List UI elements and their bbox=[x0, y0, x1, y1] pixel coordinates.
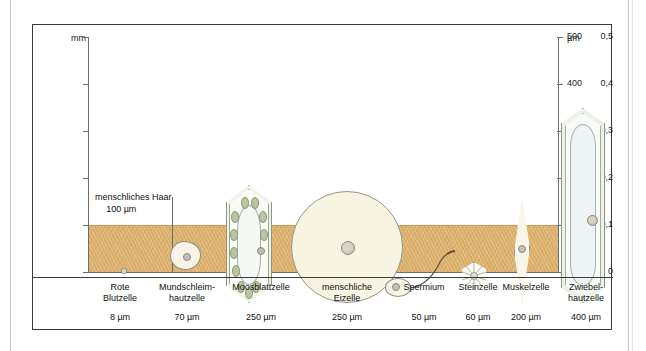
human-hair-annotation: menschliches Haar 100 µm bbox=[95, 191, 172, 215]
cell-nucleus bbox=[341, 241, 355, 255]
scan-page-edge-right-secondary bbox=[632, 0, 633, 351]
cell-vacuole bbox=[570, 124, 596, 286]
chloroplast bbox=[259, 211, 267, 223]
caption-name-red-blood-cell: Rote Blutzelle bbox=[89, 282, 151, 304]
caption-row: Rote Blutzelle 8 µm Mundschleim- hautzel… bbox=[33, 277, 613, 332]
caption-size-onion-skin-cell: 400 µm bbox=[555, 312, 617, 323]
cell-nucleus bbox=[587, 215, 598, 226]
caption-name-human-egg-cell: menschliche Eizelle bbox=[301, 282, 393, 304]
chloroplast bbox=[230, 247, 238, 259]
left-axis-tick-0.5 bbox=[83, 37, 89, 38]
caption-size-muscle-cell: 200 µm bbox=[489, 312, 563, 323]
left-axis-tick-0.1 bbox=[83, 225, 89, 226]
chloroplast bbox=[260, 229, 268, 241]
figure-frame: mm µm 0,5 0,4 0,3 0,2 0,1 0 500 400 300 … bbox=[32, 24, 612, 330]
right-axis-label-400: 400 bbox=[567, 79, 582, 88]
chloroplast bbox=[231, 211, 239, 223]
mouth-mucosa-cell-icon bbox=[170, 241, 201, 270]
onion-skin-cell-icon bbox=[561, 108, 605, 303]
human-hair-leader-line bbox=[172, 197, 173, 226]
chloroplast bbox=[232, 265, 240, 277]
human-hair-annotation-value: 100 µm bbox=[95, 203, 172, 215]
left-axis-unit: mm bbox=[71, 33, 86, 43]
cell-nucleus bbox=[257, 247, 265, 255]
left-axis-tick-0.3 bbox=[83, 131, 89, 132]
scan-page-edge-left bbox=[10, 0, 11, 351]
left-axis-tick-0.2 bbox=[83, 178, 89, 179]
scan-page-edge-right bbox=[628, 0, 629, 351]
chloroplast bbox=[230, 229, 238, 241]
cell-nucleus bbox=[518, 245, 526, 253]
left-axis-tick-0.4 bbox=[83, 84, 89, 85]
chloroplast bbox=[251, 197, 259, 209]
right-axis-tick-500 bbox=[557, 37, 563, 38]
caption-size-red-blood-cell: 8 µm bbox=[89, 312, 151, 323]
cell-vacuole bbox=[237, 205, 261, 285]
caption-size-mouth-mucosa-cell: 70 µm bbox=[151, 312, 223, 323]
red-blood-cell-icon bbox=[121, 268, 127, 274]
caption-name-moss-leaf-cell: Moosblattzelle bbox=[223, 282, 299, 293]
chloroplast bbox=[241, 197, 249, 209]
plot-area: mm µm 0,5 0,4 0,3 0,2 0,1 0 500 400 300 … bbox=[33, 25, 613, 277]
left-axis-line bbox=[88, 37, 89, 273]
human-hair-annotation-label: menschliches Haar bbox=[95, 192, 172, 202]
cell-nucleus bbox=[183, 253, 191, 261]
left-axis-tick-0 bbox=[83, 272, 89, 273]
right-axis-line bbox=[558, 37, 559, 273]
caption-name-mouth-mucosa-cell: Mundschleim- hautzelle bbox=[151, 282, 223, 304]
caption-size-human-egg-cell: 250 µm bbox=[301, 312, 393, 323]
caption-name-muscle-cell: Muskelzelle bbox=[489, 282, 563, 293]
caption-name-onion-skin-cell: Zwiebel- hautzelle bbox=[555, 282, 617, 304]
caption-size-moss-leaf-cell: 250 µm bbox=[223, 312, 299, 323]
right-axis-tick-400 bbox=[557, 84, 563, 85]
right-axis-label-500: 500 bbox=[567, 32, 582, 41]
